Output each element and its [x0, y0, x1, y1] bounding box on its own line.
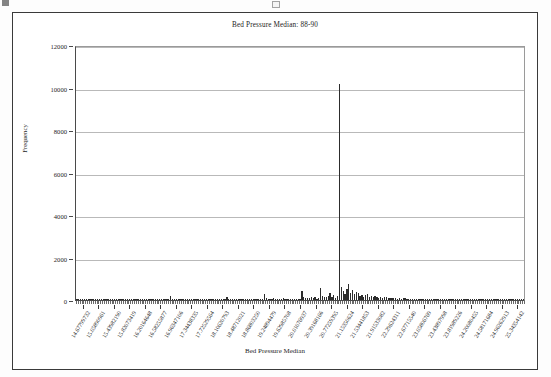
x-axis-minor-tick [207, 301, 208, 304]
x-axis-minor-tick [121, 301, 122, 304]
x-axis-tick-mark [486, 305, 487, 309]
x-axis-minor-tick [316, 301, 317, 304]
x-axis-minor-tick [363, 301, 364, 304]
x-axis-minor-tick [248, 301, 249, 304]
x-axis-minor-tick [350, 301, 351, 304]
x-axis-tick-mark [409, 305, 410, 309]
x-axis-minor-tick [503, 301, 504, 304]
x-axis-tick-mark [517, 305, 518, 309]
x-axis-minor-tick [477, 301, 478, 304]
x-axis-minor-tick [490, 301, 491, 304]
x-axis-tick-mark [238, 305, 239, 309]
x-axis-minor-tick [93, 301, 94, 304]
x-axis-minor-tick [140, 301, 141, 304]
x-axis-minor-tick [147, 301, 148, 304]
x-axis-minor-tick [314, 301, 315, 304]
x-axis-tick-mark [393, 305, 394, 309]
x-axis-minor-tick [397, 301, 398, 304]
x-axis-minor-tick [235, 301, 236, 304]
x-axis-minor-tick [447, 301, 448, 304]
x-axis-minor-tick [370, 301, 371, 304]
x-axis-minor-tick [181, 301, 182, 304]
x-axis-minor-tick [226, 301, 227, 304]
x-axis-minor-tick [245, 301, 246, 304]
x-axis-minor-tick [458, 301, 459, 304]
x-axis-minor-tick [352, 301, 353, 304]
x-axis-minor-tick [402, 301, 403, 304]
document-canvas: Bed Pressure Median: 88-90 Frequency 020… [0, 0, 551, 377]
x-axis-minor-tick [149, 301, 150, 304]
x-axis-minor-tick [194, 301, 195, 304]
x-axis-minor-tick [267, 301, 268, 304]
x-axis-minor-tick [487, 301, 488, 304]
x-axis-minor-tick [509, 301, 510, 304]
x-axis-minor-tick [151, 301, 152, 304]
x-axis-minor-tick [425, 301, 426, 304]
x-axis-minor-tick [442, 301, 443, 304]
y-axis-tick-mark [69, 216, 73, 217]
x-axis-minor-tick [247, 301, 248, 304]
x-axis-minor-tick [239, 301, 240, 304]
x-axis-minor-tick [275, 301, 276, 304]
x-axis-minor-tick [325, 301, 326, 304]
x-axis-minor-tick [241, 301, 242, 304]
x-axis-minor-tick [218, 301, 219, 304]
x-axis-minor-tick [340, 301, 341, 304]
x-axis-minor-tick [359, 301, 360, 304]
gridline [76, 47, 524, 48]
x-axis-tick-mark [129, 305, 130, 309]
x-axis-minor-tick [305, 301, 306, 304]
x-axis-minor-tick [228, 301, 229, 304]
x-axis-minor-tick [202, 301, 203, 304]
x-axis-minor-tick [494, 301, 495, 304]
x-axis-minor-tick [269, 301, 270, 304]
x-axis-minor-tick [127, 301, 128, 304]
x-axis-minor-tick [258, 301, 259, 304]
x-axis-minor-tick [320, 301, 321, 304]
x-axis-minor-tick [299, 301, 300, 304]
x-axis-minor-tick [138, 301, 139, 304]
x-axis-minor-tick [496, 301, 497, 304]
x-axis-minor-tick [335, 301, 336, 304]
y-axis-tick-label: 10000 [51, 85, 67, 92]
x-axis-minor-tick [432, 301, 433, 304]
x-axis-minor-tick [252, 301, 253, 304]
x-axis-minor-tick [160, 301, 161, 304]
x-axis-minor-tick [479, 301, 480, 304]
x-axis-minor-tick [449, 301, 450, 304]
y-axis-tick-mark [69, 89, 73, 90]
x-axis-minor-tick [78, 301, 79, 304]
x-axis-minor-tick [233, 301, 234, 304]
x-axis-minor-tick [297, 301, 298, 304]
x-axis-minor-tick [374, 301, 375, 304]
x-axis-minor-tick [232, 301, 233, 304]
x-axis-minor-tick [209, 301, 210, 304]
x-axis-minor-tick [507, 301, 508, 304]
x-axis-minor-tick [87, 301, 88, 304]
x-axis-tick-mark [145, 305, 146, 309]
x-axis-minor-tick [372, 301, 373, 304]
gridline [76, 175, 524, 176]
x-axis-minor-tick [346, 301, 347, 304]
y-axis-tick-mark [69, 259, 73, 260]
x-axis-minor-tick [404, 301, 405, 304]
y-axis-tick-label: 0 [64, 298, 67, 305]
x-axis-minor-tick [119, 301, 120, 304]
x-axis-minor-tick [380, 301, 381, 304]
x-axis-minor-tick [145, 301, 146, 304]
x-axis-minor-tick [271, 301, 272, 304]
x-axis-minor-tick [518, 301, 519, 304]
gridline [76, 90, 524, 91]
x-axis-minor-tick [443, 301, 444, 304]
x-axis-minor-tick [301, 301, 302, 304]
x-axis-minor-tick [419, 301, 420, 304]
x-axis-minor-tick [498, 301, 499, 304]
x-axis-minor-tick [288, 301, 289, 304]
x-axis-tick-mark [83, 305, 84, 309]
x-axis-tick-mark [316, 305, 317, 309]
x-axis-tick-mark [455, 305, 456, 309]
x-axis-minor-tick [278, 301, 279, 304]
x-axis-minor-tick [190, 301, 191, 304]
x-axis-minor-tick [115, 301, 116, 304]
x-axis-minor-tick [522, 301, 523, 304]
